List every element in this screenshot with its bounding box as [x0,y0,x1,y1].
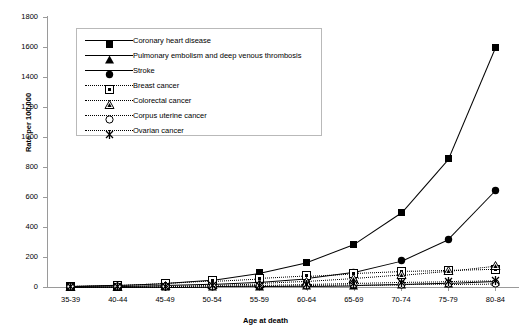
data-point-marker [160,281,171,292]
data-point-marker [490,275,501,286]
legend-marker-icon [104,96,114,106]
legend-marker-icon [104,36,114,46]
legend-key-swatch [85,80,133,92]
legend-item-label: Corpus uterine cancer [133,111,207,121]
data-point-marker [254,280,265,291]
legend-item-corpus-uterine-cancer[interactable]: Corpus uterine cancer [77,109,321,123]
legend-item-label: Ovarian cancer [133,126,184,136]
data-point-marker [301,279,312,290]
series-line-segment [259,284,306,286]
legend-marker-icon [104,111,114,121]
series-line-segment [165,286,212,288]
series-line-segment [71,287,118,288]
legend-item-ovarian-cancer[interactable]: Ovarian cancer [77,124,321,138]
legend-key-swatch [85,50,133,62]
legend-key-swatch [85,110,133,122]
legend-item-label: Stroke [133,66,155,76]
legend-item-colorectal-cancer[interactable]: Colorectal cancer [77,94,321,108]
legend-marker-icon [104,51,114,61]
legend-key-swatch [85,35,133,47]
data-point-marker [65,281,76,292]
series-line-segment [212,285,259,287]
series-line-segment [401,281,448,283]
series-line-segment [448,281,495,283]
legend-key-swatch [85,125,133,137]
legend-item-label: Coronary heart disease [133,36,211,46]
legend-marker-icon [104,66,114,76]
legend-item-breast-cancer[interactable]: Breast cancer [77,79,321,93]
legend-item-coronary-heart-disease[interactable]: Coronary heart disease [77,34,321,48]
legend-item-label: Colorectal cancer [133,96,191,106]
legend-marker-icon [104,126,114,136]
data-point-marker [112,281,123,292]
legend-item-label: Breast cancer [133,81,179,91]
legend-key-swatch [85,65,133,77]
chart-container: 020040060080010001200140016001800 Rate p… [0,0,531,336]
series-line-segment [307,283,354,285]
chart-legend: Coronary heart diseasePulmonary embolism… [76,28,322,136]
legend-marker-icon [104,81,114,91]
data-point-marker [348,278,359,289]
legend-key-swatch [85,95,133,107]
legend-item-stroke[interactable]: Stroke [77,64,321,78]
legend-item-label: Pulmonary embolism and deep venous throm… [133,51,301,61]
series-line-segment [354,282,401,284]
data-point-marker [396,277,407,288]
series-line-segment [118,286,165,287]
data-point-marker [443,276,454,287]
data-point-marker [207,280,218,291]
legend-item-pulmonary-embolism-and-deep-venous-thrombosis[interactable]: Pulmonary embolism and deep venous throm… [77,49,321,63]
